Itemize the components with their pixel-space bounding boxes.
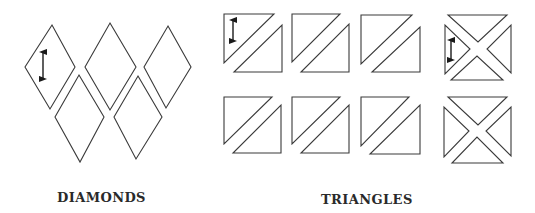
diamonds-label: DIAMONDS — [57, 190, 146, 205]
triangles-label: TRIANGLES — [321, 192, 413, 207]
quilt-shapes-diagram — [0, 0, 535, 213]
diamonds-group — [25, 23, 191, 162]
half-square-triangles-group — [224, 14, 420, 154]
quarter-square-triangles-group — [444, 15, 511, 163]
diamond-3 — [144, 26, 191, 108]
qst-1-right — [487, 25, 511, 73]
